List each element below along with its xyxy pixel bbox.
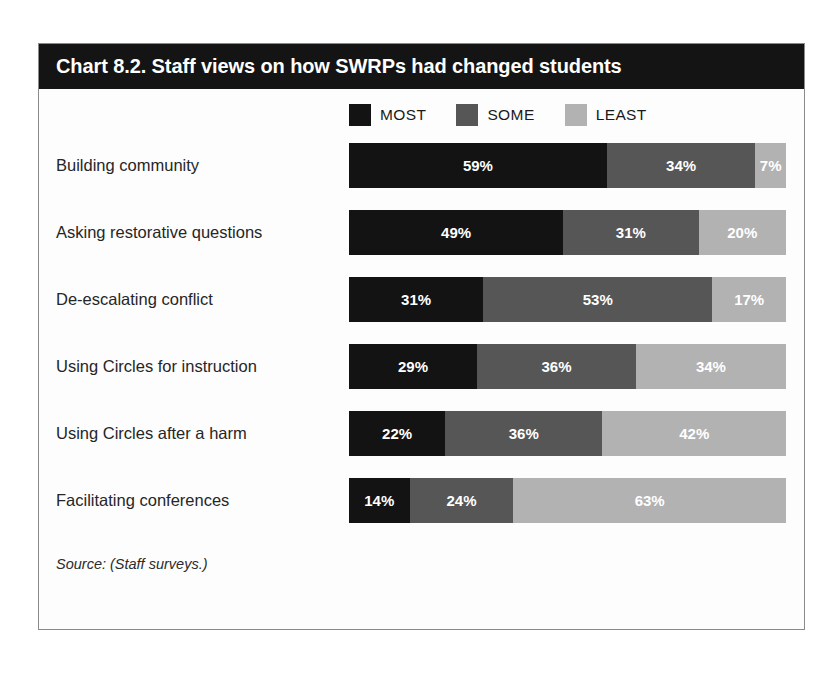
bar-segment-least: 63% [513,478,786,523]
legend-label-some: SOME [487,106,534,124]
stacked-bar: 29% 36% 34% [349,344,786,389]
bar-segment-some: 24% [410,478,514,523]
bar-segment-least: 7% [755,143,786,188]
category-label: Using Circles for instruction [56,344,257,389]
bar-segment-some: 31% [563,210,698,255]
legend-swatch-most [349,104,371,126]
bar-segment-most: 49% [349,210,563,255]
legend-label-most: MOST [380,106,426,124]
legend-swatch-least [565,104,587,126]
chart-legend: MOST SOME LEAST [349,101,647,129]
chart-row: Using Circles for instruction 29% 36% 34… [39,344,804,411]
bar-segment-most: 22% [349,411,445,456]
chart-row: Using Circles after a harm 22% 36% 42% [39,411,804,478]
chart-row: Building community 59% 34% 7% [39,143,804,210]
legend-item-most: MOST [349,104,426,126]
bar-segment-most: 31% [349,277,483,322]
legend-swatch-some [456,104,478,126]
bar-segment-least: 20% [699,210,786,255]
category-label: De-escalating conflict [56,277,213,322]
stacked-bar: 14% 24% 63% [349,478,786,523]
bar-segment-least: 17% [712,277,786,322]
bar-segment-some: 36% [445,411,602,456]
chart-row: Asking restorative questions 49% 31% 20% [39,210,804,277]
chart-row: Facilitating conferences 14% 24% 63% [39,478,804,545]
legend-label-least: LEAST [596,106,647,124]
chart-row: De-escalating conflict 31% 53% 17% [39,277,804,344]
category-label: Asking restorative questions [56,210,262,255]
category-label: Using Circles after a harm [56,411,247,456]
bar-segment-least: 34% [636,344,786,389]
bar-segment-some: 53% [483,277,712,322]
bar-segment-most: 59% [349,143,607,188]
legend-item-least: LEAST [565,104,647,126]
chart-title: Chart 8.2. Staff views on how SWRPs had … [39,55,622,78]
chart-title-bar: Chart 8.2. Staff views on how SWRPs had … [39,44,804,89]
chart-plot-area: Building community 59% 34% 7% Asking res… [39,143,804,545]
bar-segment-most: 14% [349,478,410,523]
bar-segment-most: 29% [349,344,477,389]
bar-segment-least: 42% [602,411,786,456]
chart-card: Chart 8.2. Staff views on how SWRPs had … [38,43,805,630]
category-label: Building community [56,143,199,188]
stacked-bar: 31% 53% 17% [349,277,786,322]
legend-item-some: SOME [456,104,534,126]
stacked-bar: 59% 34% 7% [349,143,786,188]
bar-segment-some: 36% [477,344,636,389]
category-label: Facilitating conferences [56,478,229,523]
stacked-bar: 49% 31% 20% [349,210,786,255]
chart-source-note: Source: (Staff surveys.) [56,556,208,572]
stacked-bar: 22% 36% 42% [349,411,786,456]
bar-segment-some: 34% [607,143,756,188]
